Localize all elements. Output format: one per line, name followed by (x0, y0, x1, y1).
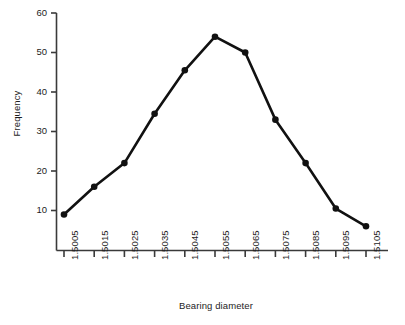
data-point-marker (363, 223, 370, 230)
data-point-marker (182, 67, 189, 74)
x-axis-tick-label: 1.5025 (129, 230, 140, 260)
y-axis-tick-label: 40 (21, 86, 47, 97)
data-point-marker (212, 33, 219, 40)
y-axis-tick-label: 60 (21, 7, 47, 18)
x-axis-tick-label: 1.5085 (310, 230, 321, 260)
y-axis-tick-label: 30 (21, 125, 47, 136)
x-axis-tick-label: 1.5045 (189, 230, 200, 260)
x-axis-tick-label: 1.5015 (99, 230, 110, 260)
y-axis-tick-label: 10 (21, 204, 47, 215)
data-point-marker (121, 160, 128, 167)
data-point-marker (151, 110, 158, 117)
x-axis-tick-label: 1.5005 (69, 230, 80, 260)
x-axis-tick-label: 1.5065 (250, 230, 261, 260)
x-axis-tick-label: 1.5035 (159, 230, 170, 260)
plot-area (0, 0, 405, 325)
x-axis-tick-label: 1.5075 (280, 230, 291, 260)
data-point-marker (242, 49, 249, 56)
y-axis-tick-label: 20 (21, 165, 47, 176)
data-point-marker (333, 205, 340, 212)
y-axis-tick-label: 50 (21, 46, 47, 57)
x-axis-title: Bearing diameter (56, 300, 376, 311)
data-line (64, 37, 366, 227)
x-axis-tick-label: 1.5105 (371, 230, 382, 260)
frequency-polygon-chart: Frequency Bearing diameter 102030405060 … (0, 0, 405, 325)
y-axis-title: Frequency (11, 64, 22, 164)
data-point-marker (91, 184, 98, 191)
data-point-marker (272, 116, 279, 123)
x-axis-tick-label: 1.5055 (220, 230, 231, 260)
x-axis-tick-label: 1.5095 (340, 230, 351, 260)
data-point-marker (61, 211, 68, 218)
data-point-marker (302, 160, 309, 167)
